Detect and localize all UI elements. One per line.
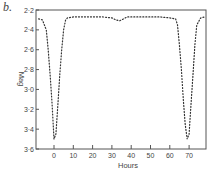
x-tick-label: 50 (147, 152, 155, 159)
x-tick-label: 0 (52, 152, 56, 159)
y-tick-label: 3·0 (24, 86, 34, 93)
x-axis-title: Hours (118, 161, 138, 170)
x-tick-label: 30 (108, 152, 116, 159)
x-tick-label: 60 (166, 152, 174, 159)
x-tick-label: 20 (89, 152, 97, 159)
light-curve-line (39, 17, 205, 139)
plot-frame (36, 10, 206, 149)
y-tick-label: 2·4 (24, 26, 34, 33)
y-tick-label: 2·2 (24, 7, 34, 14)
y-tick-label: 3·6 (24, 146, 34, 153)
x-tick-label: 40 (127, 152, 135, 159)
x-tick-label: 10 (69, 152, 77, 159)
light-curve-chart: 2·22·42·62·83·03·23·43·6 010203040506070… (0, 0, 212, 170)
y-tick-label: 2·6 (24, 46, 34, 53)
data-series (39, 17, 205, 139)
x-axis: 010203040506070 (52, 145, 193, 159)
y-tick-label: 3·4 (24, 126, 34, 133)
y-tick-label: 3·2 (24, 106, 34, 113)
x-tick-label: 70 (185, 152, 193, 159)
y-axis-title: Mag (17, 72, 26, 87)
